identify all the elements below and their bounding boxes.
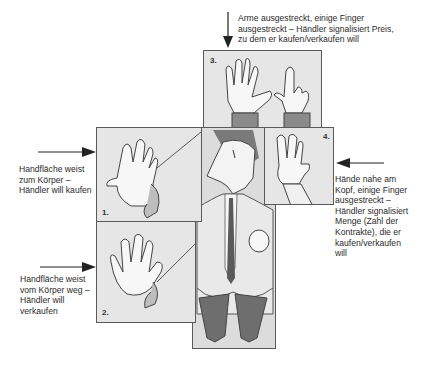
caption-panel-3: Arme ausgestreckt, einige Finger ausgest…: [238, 13, 394, 45]
arrow-panel-3-icon: [223, 12, 233, 48]
arrow-panel-2-icon: [40, 262, 96, 272]
caption-panel-1: Handfläche weist zum Körper – Händler wi…: [19, 164, 92, 196]
caption-panel-2: Handfläche weist vom Körper weg – Händle…: [20, 274, 90, 316]
arrow-panel-1-icon: [38, 147, 96, 157]
caption-panel-4: Hände nahe am Kopf, einige Finger ausges…: [335, 174, 408, 259]
arrow-panel-4-icon: [336, 158, 384, 168]
